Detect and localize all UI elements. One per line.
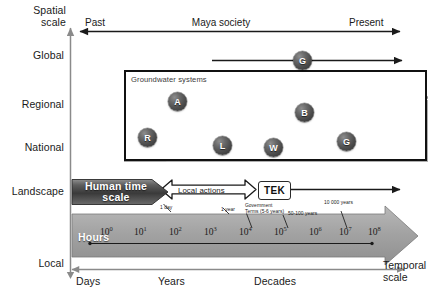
panel-marker-r: R <box>138 128 157 147</box>
panel-marker-l: L <box>213 136 232 155</box>
annotation-ten-thousand-years: 10 000 years <box>324 200 353 206</box>
timeline-tick-4: 104 <box>239 226 252 237</box>
tick-exp-1: 1 <box>144 225 147 232</box>
y-tick-local: Local <box>0 258 64 269</box>
tick-base-1: 10 <box>134 226 144 237</box>
era-label-present: Present <box>349 17 383 28</box>
panel-marker-w: W <box>264 138 283 157</box>
y-axis-title-line1: Spatial <box>4 5 66 17</box>
annotation-fifty-hundred-years: 50-100 years <box>288 211 317 217</box>
tick-exp-0: 0 <box>110 225 113 232</box>
tick-base-0: 10 <box>100 226 110 237</box>
timeline-tick-5: 105 <box>274 226 287 237</box>
panel-marker-b: B <box>295 103 314 122</box>
tick-exp-6: 6 <box>319 225 322 232</box>
groundwater-panel-title: Groundwater systems <box>131 75 207 84</box>
annotation-one-day: 1 day <box>160 205 172 211</box>
x-tick-days: Days <box>76 276 100 287</box>
x-tick-years: Years <box>158 276 185 287</box>
annotation-government-terms: Government Terms (5-6 years) <box>245 203 284 214</box>
human-time-scale-label: Human time scale <box>74 180 158 204</box>
tick-exp-3: 3 <box>214 225 217 232</box>
tick-base-8: 10 <box>368 226 378 237</box>
x-tick-decades: Decades <box>254 276 296 287</box>
tek-box: TEK <box>258 181 291 200</box>
panel-marker-g: G <box>337 132 356 151</box>
tick-exp-7: 7 <box>349 225 352 232</box>
tick-exp-4: 4 <box>249 225 252 232</box>
human-time-scale-line2: scale <box>85 192 147 204</box>
tick-base-6: 10 <box>309 226 319 237</box>
y-tick-regional: Regional <box>0 99 64 110</box>
panel-marker-a: A <box>168 92 187 111</box>
y-tick-landscape: Landscape <box>0 186 64 197</box>
timeline-tick-6: 106 <box>309 226 322 237</box>
tick-base-5: 10 <box>274 226 284 237</box>
timeline-tick-2: 102 <box>169 226 182 237</box>
tick-base-2: 10 <box>169 226 179 237</box>
timeline-tick-0: 100 <box>100 226 113 237</box>
x-axis-title: Temporal scale <box>383 260 426 283</box>
tick-base-4: 10 <box>239 226 249 237</box>
tick-base-7: 10 <box>339 226 349 237</box>
timeline-tick-1: 101 <box>134 226 147 237</box>
tick-base-3: 10 <box>204 226 214 237</box>
x-axis-title-line2: scale <box>383 272 426 284</box>
annotation-government-terms-line2: Terms (5-6 years) <box>245 209 284 215</box>
timeline-tick-8: 108 <box>368 226 381 237</box>
tick-exp-5: 5 <box>284 225 287 232</box>
tick-exp-8: 8 <box>378 225 381 232</box>
local-actions-label: Local actions <box>178 186 225 195</box>
x-axis-title-line1: Temporal <box>383 260 426 272</box>
timeline-tick-3: 103 <box>204 226 217 237</box>
y-tick-global: Global <box>0 50 64 61</box>
y-tick-national: National <box>0 142 64 153</box>
global-arrow-marker-g: G <box>293 51 312 70</box>
annotation-one-year: 1 year <box>221 207 235 213</box>
figure-canvas: Groundwater systems Spatial scale Global… <box>0 0 442 303</box>
timeline-tick-7: 107 <box>339 226 352 237</box>
tick-exp-2: 2 <box>179 225 182 232</box>
